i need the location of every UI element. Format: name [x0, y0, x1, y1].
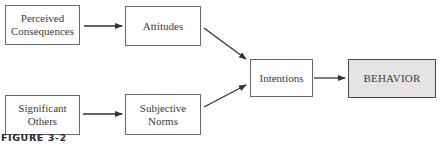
node-significant-others: Significant Others — [5, 95, 80, 135]
node-behavior: BEHAVIOR — [348, 59, 436, 98]
arrow-subjective-to-intentions — [204, 85, 246, 107]
figure-caption: FIGURE 3-2 — [1, 132, 67, 143]
node-label: Intentions — [260, 72, 304, 85]
node-subjective-norms: Subjective Norms — [125, 94, 201, 135]
node-label: Attitudes — [143, 20, 183, 33]
node-label: Significant Others — [18, 102, 66, 128]
node-label: Perceived Consequences — [11, 12, 74, 38]
node-perceived-consequences: Perceived Consequences — [5, 5, 80, 45]
arrow-attitudes-to-intentions — [204, 28, 246, 59]
node-attitudes: Attitudes — [125, 6, 201, 46]
node-intentions: Intentions — [250, 59, 313, 97]
node-label: BEHAVIOR — [363, 72, 420, 85]
node-label: Subjective Norms — [140, 102, 186, 128]
